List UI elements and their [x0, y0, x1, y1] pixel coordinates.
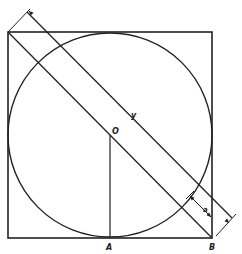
label-o: O	[112, 127, 119, 136]
strip-end-cap-bottom	[216, 214, 236, 236]
strip-end-cap-top	[8, 9, 30, 32]
label-a-width: a	[203, 206, 208, 214]
label-a-point: A	[105, 243, 112, 252]
geometry-diagram: y O A B a	[0, 0, 242, 254]
y-dimension-arrow	[29, 11, 30, 12]
strip-outer-line	[27, 12, 232, 218]
label-y: y	[131, 111, 137, 120]
a-dimension-line	[190, 196, 211, 217]
label-b: B	[209, 243, 215, 252]
